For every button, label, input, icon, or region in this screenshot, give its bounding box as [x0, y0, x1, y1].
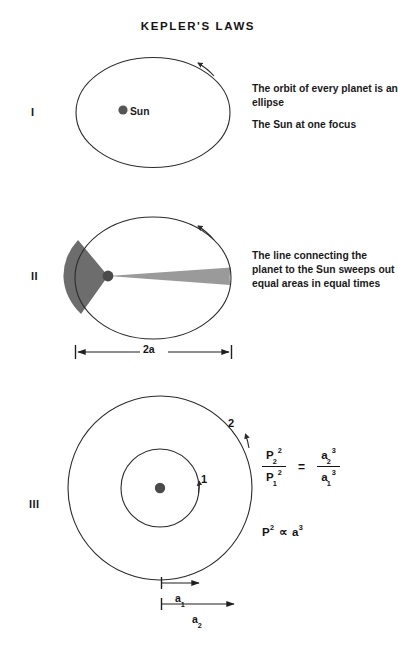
dimension-label-a1: a1 [175, 592, 185, 607]
law-2-description: The line connecting the planet to the Su… [252, 249, 398, 292]
p2-subscript: 2 [273, 457, 277, 466]
law-1-direction-arrow [198, 63, 214, 76]
law-1-description-line-1: The orbit of every planet is an ellipse [252, 82, 398, 110]
law-2-direction-arrow [198, 226, 214, 240]
law-2-orbit-ellipse [75, 217, 231, 339]
law-numeral-2: II [31, 270, 38, 282]
fraction-numerator-p2: P22 [262, 447, 286, 466]
prop-a-exponent: 3 [299, 523, 303, 532]
law-1-orbit-ellipse [76, 58, 230, 168]
a1-exponent: 3 [332, 468, 336, 477]
p2-exponent: 2 [278, 446, 282, 455]
law-1-description-line-2: The Sun at one focus [252, 118, 398, 132]
law-3-outer-direction-arrow [246, 434, 250, 448]
law-2-sun-dot [103, 271, 114, 282]
law-2-diagram [63, 217, 231, 359]
law-2-sector-far [108, 268, 231, 286]
law-2-sector-near [63, 240, 108, 314]
a2-subscript: 2 [198, 621, 202, 630]
prop-p-exponent: 2 [270, 523, 274, 532]
law-3-diagram [68, 396, 252, 610]
equals-sign: = [289, 460, 314, 474]
a2-base: a [192, 613, 198, 625]
a2-exponent: 3 [332, 446, 336, 455]
law-3-outer-orbit [68, 396, 252, 580]
a2-subscript-formula: 2 [327, 457, 331, 466]
proportional-symbol: ∝ [275, 526, 292, 538]
law-numeral-1: I [31, 106, 35, 118]
p1-exponent: 2 [278, 468, 282, 477]
dimension-label-2a: 2a [143, 343, 155, 355]
fraction-numerator-a2: a23 [317, 447, 340, 466]
prop-a-base: a [292, 526, 299, 538]
sun-label: Sun [130, 106, 149, 117]
a1-subscript-formula: 1 [327, 479, 331, 488]
prop-p-base: P [262, 526, 270, 538]
law-3-inner-direction-arrow [199, 481, 200, 493]
law-1-diagram [76, 58, 230, 168]
dimension-label-a2: a2 [192, 613, 202, 628]
law-1-sun-dot [118, 105, 127, 114]
p1-subscript: 1 [273, 479, 277, 488]
law-3-dimension-a2 [162, 598, 235, 610]
a1-subscript: 1 [181, 600, 185, 609]
law-3-dimension-a1 [162, 577, 200, 589]
kepler-third-law-formula: P22 P12 = a23 a13 [262, 447, 340, 486]
page-title: KEPLER'S LAWS [0, 20, 396, 32]
orbit-label-outer: 2 [228, 417, 234, 429]
period-ratio-fraction: P22 P12 [262, 447, 286, 486]
law-numeral-3: III [29, 498, 40, 510]
orbit-label-inner: 1 [201, 473, 207, 485]
law-3-inner-orbit [121, 449, 199, 527]
fraction-denominator-p1: P12 [262, 466, 286, 486]
a1-base: a [175, 592, 181, 604]
law-3-sun-dot [155, 483, 165, 493]
fraction-denominator-a1: a13 [317, 466, 340, 486]
kepler-third-law-proportionality: P2∝a3 [262, 524, 303, 539]
axis-ratio-fraction: a23 a13 [317, 447, 340, 486]
